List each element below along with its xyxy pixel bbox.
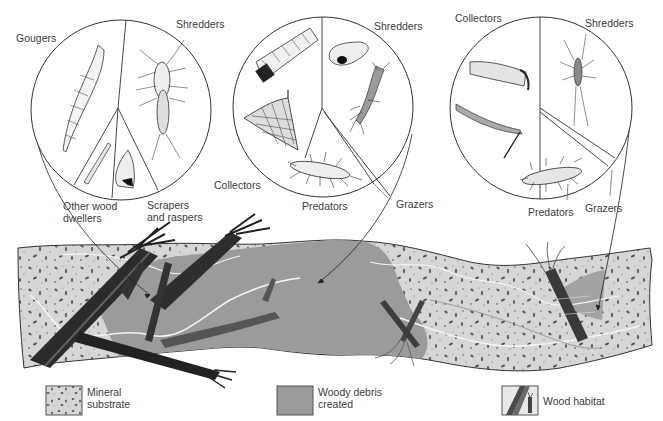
circle-1-wood-habitat-community xyxy=(31,20,211,200)
label-shredders-3: Shredders xyxy=(585,17,633,29)
label-grazers-3: Grazers xyxy=(585,202,622,214)
legend-label-woody: Woody debris created xyxy=(318,386,382,410)
legend-label-wood: Wood habitat xyxy=(543,395,605,407)
label-collectors-2: Collectors xyxy=(214,179,261,191)
diagram-stage: Gougers Shredders Other wood dwellers Sc… xyxy=(0,0,663,421)
label-other-wood-dwellers: Other wood dwellers xyxy=(63,200,117,224)
label-collectors-3: Collectors xyxy=(455,12,502,24)
legend-swatch-woody xyxy=(277,386,313,415)
legend-swatch-mineral xyxy=(46,386,82,415)
label-shredders-2: Shredders xyxy=(374,20,422,32)
legend-label-mineral: Mineral substrate xyxy=(87,386,130,410)
label-gougers: Gougers xyxy=(16,32,56,44)
label-shredders-1: Shredders xyxy=(176,18,224,30)
label-scrapers-raspers: Scrapers and raspers xyxy=(147,199,202,223)
label-predators-3: Predators xyxy=(528,206,574,218)
label-predators-2: Predators xyxy=(302,200,348,212)
circle-2-woody-debris-community xyxy=(233,17,413,197)
label-grazers-2: Grazers xyxy=(396,198,433,210)
legend-swatch-wood xyxy=(502,386,538,415)
circle-3-mineral-substrate-community xyxy=(450,17,632,199)
